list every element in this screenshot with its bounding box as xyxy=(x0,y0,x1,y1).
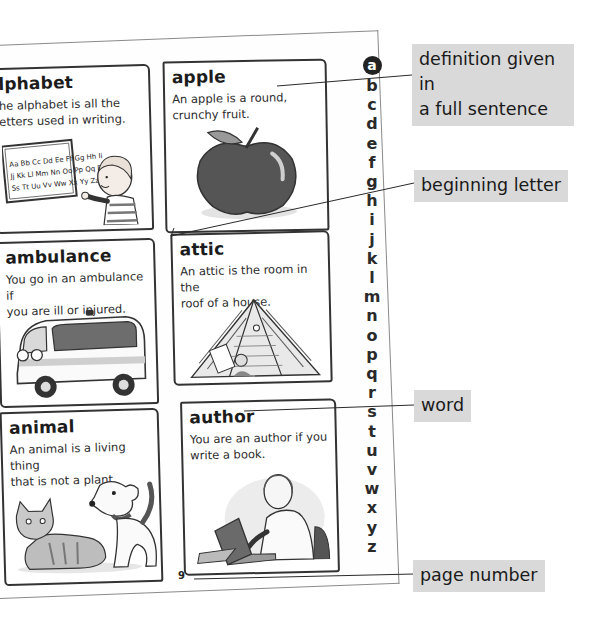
callout-word: word xyxy=(414,390,471,422)
callout-page-number: page number xyxy=(413,560,545,592)
callout-beginning-letter: beginning letter xyxy=(414,170,568,202)
callout-definition: definition given in a full sentence xyxy=(412,44,574,126)
